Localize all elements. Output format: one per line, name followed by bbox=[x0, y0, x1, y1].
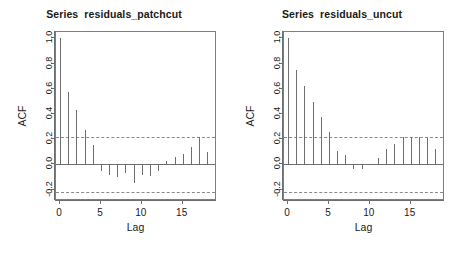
y-axis-tick-label: 0.2 bbox=[44, 138, 54, 151]
acf-bar bbox=[85, 130, 86, 165]
x-axis-tick bbox=[328, 200, 329, 204]
acf-bar bbox=[394, 144, 395, 165]
acf-bar bbox=[403, 137, 404, 164]
plot-area bbox=[55, 31, 216, 200]
y-axis-tick-label: -0.2 bbox=[272, 189, 282, 205]
panel-acf-patchcut: Series residuals_patchcut ACF -0.20.00.2… bbox=[0, 0, 228, 256]
x-axis-tick bbox=[182, 200, 183, 204]
y-axis-tick-label: 0.4 bbox=[272, 113, 282, 126]
y-axis-tick-label: -0.2 bbox=[44, 189, 54, 205]
y-axis-tick-label: 0.6 bbox=[44, 88, 54, 101]
acf-bar bbox=[134, 164, 135, 182]
y-axis-tick-label: 1.0 bbox=[272, 37, 282, 50]
x-axis-tick-label: 5 bbox=[325, 207, 331, 218]
y-axis-title-label: ACF bbox=[15, 105, 27, 126]
x-axis-title: Lag bbox=[283, 221, 444, 233]
acf-bar bbox=[101, 164, 102, 171]
acf-bar bbox=[199, 137, 200, 164]
confidence-band-line bbox=[284, 192, 443, 193]
x-axis-tick-label: 10 bbox=[135, 207, 146, 218]
acf-bar bbox=[175, 157, 176, 164]
acf-bar bbox=[150, 164, 151, 175]
x-axis-tick-label: 0 bbox=[284, 207, 290, 218]
acf-bar bbox=[304, 86, 305, 165]
y-axis-tick-label: 0.6 bbox=[272, 88, 282, 101]
acf-bar bbox=[427, 138, 428, 164]
acf-bar bbox=[345, 155, 346, 164]
acf-bar bbox=[166, 161, 167, 165]
y-axis-tick-label: 0.0 bbox=[44, 163, 54, 176]
x-axis-tick-label: 0 bbox=[56, 207, 62, 218]
acf-bar bbox=[411, 137, 412, 164]
acf-bar bbox=[288, 38, 289, 164]
acf-bar bbox=[435, 149, 436, 164]
acf-bar bbox=[191, 147, 192, 164]
zero-line bbox=[56, 164, 215, 165]
acf-bar bbox=[142, 164, 143, 175]
x-axis-tick bbox=[59, 200, 60, 204]
acf-bar bbox=[370, 164, 371, 165]
x-axis-tick bbox=[141, 200, 142, 204]
acf-bar bbox=[419, 137, 420, 164]
acf-bar bbox=[296, 70, 297, 164]
y-axis-title: ACF bbox=[14, 31, 28, 200]
acf-bar bbox=[207, 152, 208, 164]
acf-bar bbox=[125, 164, 126, 173]
acf-bar bbox=[362, 164, 363, 169]
plot-inner bbox=[56, 32, 215, 199]
y-axis-tick-label: 0.4 bbox=[44, 113, 54, 126]
zero-line bbox=[284, 164, 443, 165]
plot-inner bbox=[284, 32, 443, 199]
panel-title: Series residuals_uncut bbox=[228, 8, 456, 20]
confidence-band-line bbox=[56, 137, 215, 138]
y-axis-tick-label: 0.2 bbox=[272, 138, 282, 151]
x-axis-tick bbox=[287, 200, 288, 204]
acf-bar bbox=[183, 154, 184, 164]
acf-figure: Series residuals_patchcut ACF -0.20.00.2… bbox=[0, 0, 457, 256]
y-axis-title: ACF bbox=[242, 31, 256, 200]
panel-acf-uncut: Series residuals_uncut ACF -0.20.00.20.4… bbox=[228, 0, 456, 256]
acf-bar bbox=[386, 149, 387, 165]
x-axis-tick-label: 5 bbox=[97, 207, 103, 218]
x-axis-title: Lag bbox=[55, 221, 216, 233]
y-axis-title-label: ACF bbox=[243, 105, 255, 126]
y-axis-tick-label: 0.8 bbox=[44, 63, 54, 76]
acf-bar bbox=[60, 38, 61, 164]
acf-bar bbox=[353, 164, 354, 168]
acf-bar bbox=[68, 92, 69, 165]
confidence-band-line bbox=[56, 192, 215, 193]
x-axis: 051015 bbox=[283, 200, 444, 204]
y-axis-tick-label: 1.0 bbox=[44, 37, 54, 50]
acf-bar bbox=[158, 164, 159, 171]
acf-bar bbox=[117, 164, 118, 177]
x-axis-tick bbox=[100, 200, 101, 204]
acf-bar bbox=[337, 151, 338, 164]
panel-title: Series residuals_patchcut bbox=[0, 8, 228, 20]
x-axis-tick bbox=[369, 200, 370, 204]
y-axis-tick-label: 0.0 bbox=[272, 163, 282, 176]
x-axis-tick bbox=[410, 200, 411, 204]
y-axis-tick-label: 0.8 bbox=[272, 63, 282, 76]
acf-bar bbox=[378, 158, 379, 164]
acf-bar bbox=[93, 145, 94, 165]
x-axis-tick-label: 15 bbox=[176, 207, 187, 218]
x-axis-tick-label: 15 bbox=[404, 207, 415, 218]
acf-bar bbox=[313, 102, 314, 164]
acf-bar bbox=[321, 117, 322, 165]
x-axis-tick-label: 10 bbox=[363, 207, 374, 218]
x-axis: 051015 bbox=[55, 200, 216, 204]
acf-bar bbox=[329, 132, 330, 165]
plot-area bbox=[283, 31, 444, 200]
acf-bar bbox=[109, 164, 110, 175]
acf-bar bbox=[76, 110, 77, 164]
